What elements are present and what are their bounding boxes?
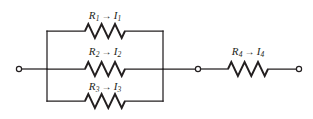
label-arrow-2: →: [99, 46, 113, 57]
label-branch-3: R3→I3: [89, 81, 122, 92]
label-i3-subscript: 3: [118, 85, 122, 94]
right-terminal-node: [296, 66, 301, 71]
label-branch-4: R4→I4: [232, 46, 265, 57]
left-terminal-node: [16, 66, 21, 71]
label-arrow-4: →: [242, 46, 256, 57]
resistor-r4-zigzag: [228, 62, 268, 76]
label-r1-symbol: R: [89, 9, 96, 21]
circuit-diagram: R1→I1 R2→I2 R3→I3 R4→I4: [0, 0, 313, 119]
label-branch-1: R1→I1: [89, 10, 122, 21]
label-r3-symbol: R: [89, 80, 96, 92]
resistor-r2-zigzag: [85, 62, 125, 76]
label-i1-subscript: 1: [118, 14, 122, 23]
label-r4-symbol: R: [232, 45, 239, 57]
label-r2-symbol: R: [89, 45, 96, 57]
label-arrow-1: →: [99, 10, 113, 21]
middle-terminal-node: [195, 66, 200, 71]
label-arrow-3: →: [99, 81, 113, 92]
resistor-r1-zigzag: [85, 24, 125, 38]
label-i2-subscript: 2: [118, 50, 122, 59]
resistor-r3-zigzag: [85, 94, 125, 108]
label-branch-2: R2→I2: [89, 46, 122, 57]
label-i4-subscript: 4: [261, 50, 265, 59]
circuit-schematic-svg: [0, 0, 313, 119]
